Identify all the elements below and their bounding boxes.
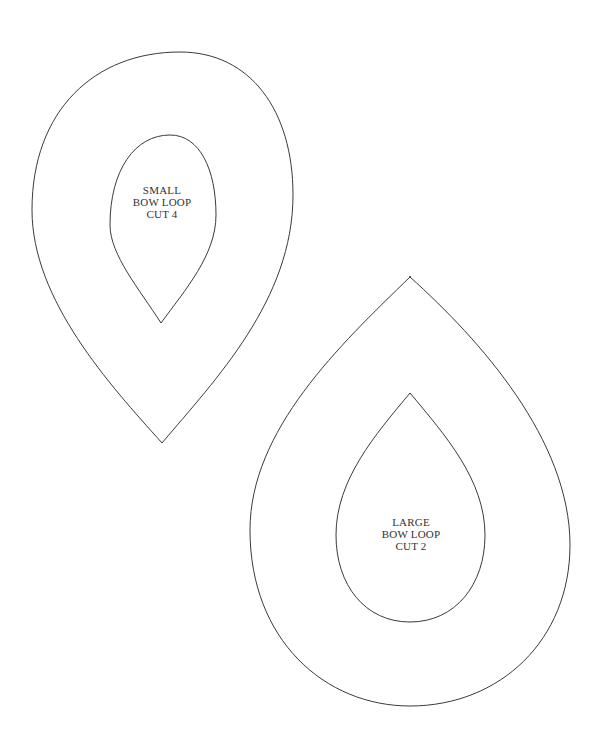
small-loop-outer-outline: [32, 52, 293, 443]
small-loop-label-line-3: CUT 4: [112, 208, 212, 220]
large-loop-tip-mark: [409, 276, 411, 278]
large-loop-inner-outline: [336, 393, 485, 622]
small-loop-label: SMALL BOW LOOP CUT 4: [112, 184, 212, 220]
small-loop-label-line-2: BOW LOOP: [112, 196, 212, 208]
template-canvas: [0, 0, 605, 743]
large-loop-label-line-1: LARGE: [361, 516, 461, 528]
large-loop-label-line-3: CUT 2: [361, 540, 461, 552]
large-loop-label: LARGE BOW LOOP CUT 2: [361, 516, 461, 552]
large-loop-outer-outline: [250, 277, 570, 706]
large-loop-label-line-2: BOW LOOP: [361, 528, 461, 540]
small-loop-label-line-1: SMALL: [112, 184, 212, 196]
small-loop-inner-outline: [110, 135, 216, 323]
